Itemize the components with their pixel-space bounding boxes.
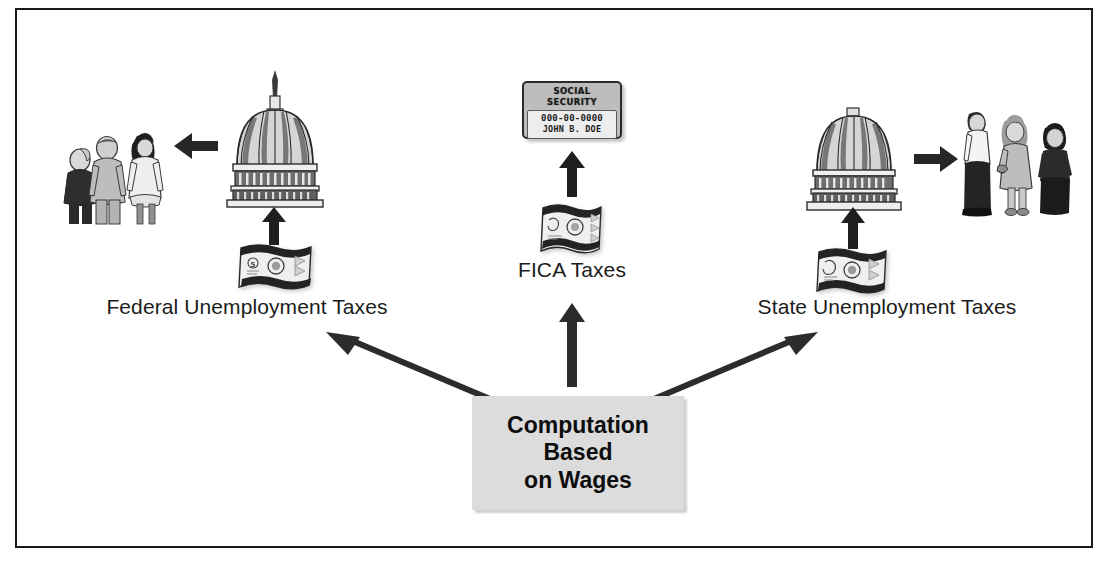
ssn-card-number: 000-00-0000 [528, 113, 616, 124]
diagram-canvas: 5 Federal Unemployment Taxes SOCIAL SECU… [0, 0, 1111, 567]
social-security-card-icon: SOCIAL SECURITY 000-00-0000 JOHN B. DOE [522, 81, 622, 139]
svg-text:5: 5 [251, 261, 256, 269]
branch-label-center: FICA Taxes [457, 258, 687, 282]
arrow-diagonal-left [312, 325, 497, 405]
people-group-icon-right [957, 106, 1077, 216]
branch-label-left: Federal Unemployment Taxes [57, 295, 437, 319]
branch-label-right: State Unemployment Taxes [697, 295, 1077, 319]
banknote-icon-center [535, 200, 609, 256]
diagram-frame: 5 Federal Unemployment Taxes SOCIAL SECU… [15, 8, 1093, 548]
banknote-icon-right [809, 244, 895, 296]
capitol-dome-icon-left [215, 68, 335, 208]
banknote-icon-left: 5 [231, 240, 319, 292]
computation-line-2: Based [543, 439, 612, 466]
arrow-up-center-money-to-card [557, 150, 587, 198]
computation-source-box: Computation Based on Wages [472, 396, 684, 510]
arrow-up-center-from-box [557, 302, 587, 388]
ssn-card-title: SOCIAL SECURITY [527, 86, 617, 108]
arrow-diagonal-right [647, 325, 832, 405]
capitol-dome-icon-right [799, 106, 909, 218]
computation-line-1: Computation [507, 412, 649, 439]
arrow-right-dome-to-people [910, 143, 960, 175]
computation-line-3: on Wages [524, 467, 632, 494]
ssn-card-name: JOHN B. DOE [528, 124, 616, 135]
people-group-icon-left [57, 124, 172, 224]
